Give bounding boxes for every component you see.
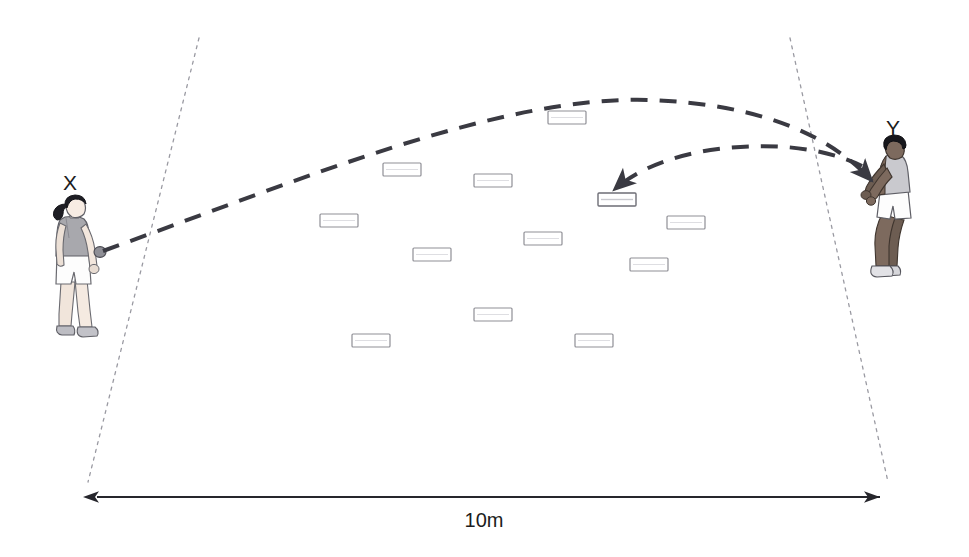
diagram-canvas: X [0,0,969,557]
boundary-line-right [790,38,888,482]
ground-marker[interactable] [413,248,451,261]
player-x-label: X [63,171,77,194]
ground-marker[interactable] [575,334,613,347]
ground-marker[interactable] [474,308,512,321]
ground-marker-target[interactable] [598,193,636,206]
player-y-figure[interactable]: Y [861,116,911,277]
drill-diagram-svg: X [0,0,969,557]
trajectory-y-to-marker [614,146,862,190]
ground-marker[interactable] [667,216,705,229]
boundary-line-left [88,38,199,482]
ground-marker[interactable] [352,334,390,347]
ground-marker[interactable] [474,174,512,187]
ground-marker[interactable] [548,111,586,124]
player-y-label: Y [886,116,900,139]
ground-marker[interactable] [320,214,358,227]
player-x-figure[interactable]: X [53,171,106,337]
ground-marker[interactable] [383,163,421,176]
ground-marker[interactable] [630,258,668,271]
boundary-lines [88,38,888,482]
ground-marker[interactable] [524,232,562,245]
marker-field [320,111,705,347]
dimension-label: 10m [465,509,504,531]
width-dimension: 10m [97,497,880,531]
